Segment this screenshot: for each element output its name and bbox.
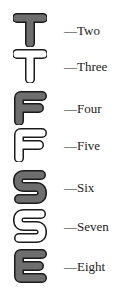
letter-t-hollow-icon <box>13 49 47 83</box>
letter-f-hollow-icon <box>13 128 47 162</box>
item-six: —Six <box>0 170 125 206</box>
letter-s-filled-icon <box>13 170 47 204</box>
label-two: —Two <box>64 24 100 38</box>
item-seven: —Seven <box>0 209 125 245</box>
label-four: —Four <box>64 102 102 116</box>
letter-f-filled-icon <box>13 91 47 125</box>
label-six: —Six <box>64 181 94 195</box>
item-two: —Two <box>0 13 125 49</box>
label-five: —Five <box>64 139 100 153</box>
letter-t-filled-icon <box>13 13 47 47</box>
item-four: —Four <box>0 91 125 127</box>
letter-s-hollow-icon <box>13 209 47 243</box>
label-eight: —Eight <box>64 260 105 274</box>
item-eight: —Eight <box>0 249 125 285</box>
letter-e-filled-icon <box>13 249 47 283</box>
label-three: —Three <box>64 60 107 74</box>
item-five: —Five <box>0 128 125 164</box>
label-seven: —Seven <box>64 220 109 234</box>
item-three: —Three <box>0 49 125 85</box>
